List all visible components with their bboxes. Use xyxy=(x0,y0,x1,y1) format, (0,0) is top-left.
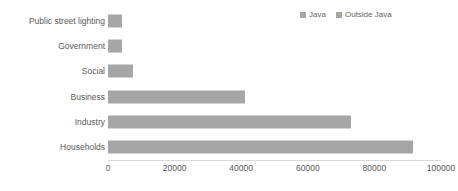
bar[interactable] xyxy=(108,39,122,52)
bar[interactable] xyxy=(108,141,413,154)
x-tick-label: 80000 xyxy=(363,163,387,173)
bar[interactable] xyxy=(108,65,133,78)
x-axis-ticks: 020000400006000080000100000 xyxy=(0,163,458,177)
x-tick-label: 100000 xyxy=(427,163,455,173)
plot-area: Public street lightingGovernmentSocialBu… xyxy=(0,8,458,160)
category-label: Business xyxy=(71,92,106,102)
bar-row: Industry xyxy=(0,109,458,134)
category-label: Social xyxy=(82,66,105,76)
bar-chart: Java Outside Java Public street lighting… xyxy=(0,0,458,191)
x-axis-line xyxy=(108,160,441,161)
bar-row: Public street lighting xyxy=(0,8,458,33)
bar-row: Business xyxy=(0,84,458,109)
bar-rows: Public street lightingGovernmentSocialBu… xyxy=(0,8,458,160)
bar-row: Households xyxy=(0,135,458,160)
category-label: Government xyxy=(58,41,105,51)
category-label: Households xyxy=(60,142,105,152)
bar[interactable] xyxy=(108,90,245,103)
bar[interactable] xyxy=(108,14,122,27)
category-label: Public street lighting xyxy=(29,16,105,26)
bar-row: Government xyxy=(0,33,458,58)
x-tick-label: 0 xyxy=(106,163,111,173)
category-label: Industry xyxy=(75,117,105,127)
x-tick-label: 60000 xyxy=(296,163,320,173)
x-tick-label: 40000 xyxy=(229,163,253,173)
bar[interactable] xyxy=(108,115,351,128)
x-tick-label: 20000 xyxy=(163,163,187,173)
bar-row: Social xyxy=(0,59,458,84)
